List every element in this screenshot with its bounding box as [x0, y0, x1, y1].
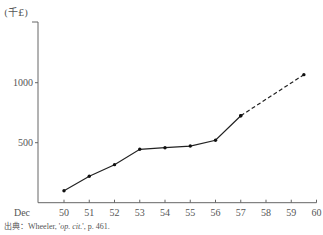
data-point — [214, 139, 217, 142]
source-suffix: ', p. 461. — [82, 222, 109, 231]
source-prefix: 出典：Wheeler, ' — [4, 222, 60, 231]
y-tick-label: 1000 — [13, 77, 33, 88]
x-tick-label: 54 — [160, 207, 170, 218]
x-tick-label: 50 — [59, 207, 69, 218]
data-point — [88, 175, 91, 178]
data-point — [302, 73, 305, 76]
data-point — [239, 114, 242, 117]
x-first-label: Dec — [14, 207, 31, 218]
source-note: 出典：Wheeler, 'op. cit.', p. 461. — [4, 220, 110, 231]
y-tick-label: 500 — [18, 137, 33, 148]
x-tick-label: 58 — [261, 207, 271, 218]
x-tick-label: 59 — [286, 207, 296, 218]
x-tick-label: 51 — [84, 207, 94, 218]
series-line-projected — [241, 75, 304, 116]
data-point — [189, 144, 192, 147]
data-point — [138, 148, 141, 151]
data-point — [62, 189, 65, 192]
x-tick-label: 57 — [236, 207, 246, 218]
series-line-actual — [64, 116, 241, 191]
data-point — [113, 163, 116, 166]
line-chart: 5001000Dec5051525354555657585960 — [0, 0, 323, 235]
axes: 5001000Dec5051525354555657585960 — [13, 22, 322, 218]
x-tick-label: 56 — [211, 207, 221, 218]
x-tick-label: 60 — [312, 207, 322, 218]
x-tick-label: 53 — [135, 207, 145, 218]
x-tick-label: 55 — [185, 207, 195, 218]
data-point — [163, 146, 166, 149]
x-tick-label: 52 — [110, 207, 120, 218]
source-italic: op. cit. — [60, 222, 82, 231]
series-group — [62, 73, 305, 192]
